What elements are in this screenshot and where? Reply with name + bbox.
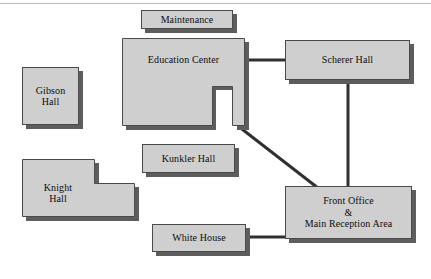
- building-gibson-hall[interactable]: Gibson Hall: [22, 67, 79, 125]
- label-line: Main Reception Area: [305, 218, 392, 230]
- label-line: Gibson: [36, 85, 66, 97]
- label-line: Hall: [42, 96, 60, 108]
- building-kunkler-hall[interactable]: Kunkler Hall: [142, 144, 235, 173]
- building-label-front-office: Front Office & Main Reception Area: [285, 186, 412, 239]
- label-line: Scherer Hall: [322, 54, 373, 66]
- label-line: &: [345, 207, 353, 219]
- building-label-scherer-hall: Scherer Hall: [285, 40, 410, 80]
- building-label-maintenance: Maintenance: [141, 10, 233, 29]
- building-maintenance[interactable]: Maintenance: [141, 10, 233, 29]
- connector-education-center-to-front-office: [238, 126, 318, 188]
- building-education-center[interactable]: Education Center: [122, 38, 245, 126]
- label-line: White House: [172, 232, 226, 244]
- building-knight-hall[interactable]: Knight Hall: [22, 159, 135, 217]
- building-white-house[interactable]: White House: [152, 224, 246, 252]
- building-front-office[interactable]: Front Office & Main Reception Area: [285, 186, 412, 239]
- building-label-knight-hall: Knight Hall: [22, 169, 94, 217]
- building-label-white-house: White House: [152, 224, 246, 252]
- label-line: Knight: [44, 182, 72, 194]
- label-line: Hall: [49, 193, 67, 205]
- label-line: Education Center: [148, 54, 219, 66]
- label-line: Kunkler Hall: [162, 153, 216, 165]
- building-scherer-hall[interactable]: Scherer Hall: [285, 40, 410, 80]
- building-label-education-center: Education Center: [122, 38, 245, 82]
- label-line: Maintenance: [161, 14, 214, 26]
- label-line: Front Office: [323, 195, 374, 207]
- building-label-kunkler-hall: Kunkler Hall: [142, 144, 235, 173]
- campus-map-diagram: Maintenance Education Center Scherer Hal…: [0, 0, 431, 279]
- building-label-gibson-hall: Gibson Hall: [22, 67, 79, 125]
